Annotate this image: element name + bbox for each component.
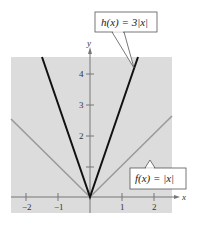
y-axis-label: y	[86, 38, 91, 48]
h-callout-label: h(x) = 3|x|	[101, 16, 148, 29]
y-tick-label: 2	[79, 131, 84, 141]
absolute-value-graph: x −2 −1 1 2 y 2 3 4 h(x) = 3|x| f(x) = |…	[0, 0, 199, 226]
x-tick-label: 1	[120, 202, 125, 212]
y-tick-label: 3	[79, 100, 84, 110]
x-axis-label: x	[181, 192, 186, 202]
x-tick-label: −2	[22, 202, 32, 212]
x-tick-label: −1	[54, 202, 64, 212]
x-tick-label: 2	[152, 202, 157, 212]
y-tick-label: 4	[79, 69, 84, 79]
f-callout-label: f(x) = |x|	[135, 172, 174, 185]
